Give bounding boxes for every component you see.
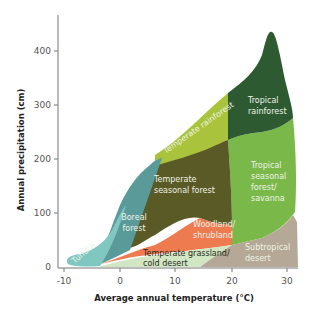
y-tick-label: 100 xyxy=(34,208,51,218)
label-tropical-seasonal-2: seasonal xyxy=(251,172,286,181)
label-subtropical-1: Subtropical xyxy=(245,243,290,252)
x-tick-label: -10 xyxy=(57,276,72,286)
y-tick-label: 300 xyxy=(34,100,51,110)
label-tropical-seasonal-1: Tropical xyxy=(250,161,282,170)
label-tropical-rainforest-1: Tropical xyxy=(247,96,279,105)
label-grassland-2: cold desert xyxy=(143,259,188,268)
label-temperate-seasonal-1: Temperate xyxy=(153,175,197,184)
label-woodland-1: Woodland/ xyxy=(193,220,236,229)
y-tick-label: 0 xyxy=(45,262,51,272)
label-woodland-2: shrubland xyxy=(193,231,233,240)
label-boreal-1: Boreal xyxy=(121,213,147,222)
x-tick-label: 10 xyxy=(169,276,181,286)
region-tropical-rainforest xyxy=(228,32,293,140)
biome-chart: 400 300 200 100 0 -10 0 10 20 30 Average… xyxy=(0,0,312,316)
label-boreal-2: forest xyxy=(122,224,145,233)
label-tropical-rainforest-2: rainforest xyxy=(248,107,287,116)
label-temperate-seasonal-2: seasonal forest xyxy=(154,186,215,195)
y-ticks: 400 300 200 100 0 xyxy=(34,46,58,272)
label-grassland-1: Temperate grassland/ xyxy=(142,249,230,258)
y-axis-title: Annual precipitation (cm) xyxy=(16,89,26,212)
label-tropical-seasonal-4: savanna xyxy=(251,194,285,203)
x-tick-label: 20 xyxy=(226,276,238,286)
x-tick-label: 0 xyxy=(117,276,123,286)
label-subtropical-2: desert xyxy=(245,254,271,263)
label-tropical-seasonal-3: forest/ xyxy=(251,183,277,192)
x-tick-label: 30 xyxy=(281,276,293,286)
y-tick-label: 200 xyxy=(34,154,51,164)
x-ticks: -10 0 10 20 30 xyxy=(57,268,293,286)
x-axis-title: Average annual temperature (°C) xyxy=(94,293,254,303)
y-tick-label: 400 xyxy=(34,46,51,56)
